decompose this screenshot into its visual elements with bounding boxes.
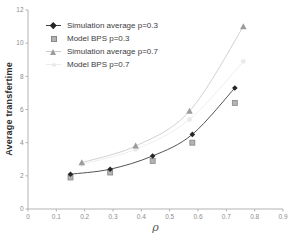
legend-item-model-p07: Model BPS p=0.7 xyxy=(46,58,158,71)
triangle-marker xyxy=(132,143,139,149)
legend-label: Model BPS p=0.7 xyxy=(67,60,129,69)
triangle-icon xyxy=(50,49,56,55)
legend-marker-triangle-icon xyxy=(46,47,63,56)
x-tick-label: 0.5 xyxy=(165,213,174,220)
triangle-marker xyxy=(240,23,247,29)
y-axis-title: Average transfertime xyxy=(4,9,14,209)
y-tick-label: 0 xyxy=(20,205,24,212)
x-tick-label: 0.8 xyxy=(250,213,259,220)
diamond-marker xyxy=(150,153,156,159)
legend-item-simulation-p07: Simulation average p=0.7 xyxy=(46,45,158,58)
dot-icon xyxy=(52,63,56,67)
y-tick-label: 10 xyxy=(16,39,24,46)
legend: Simulation average p=0.3 Model BPS p=0.3… xyxy=(46,19,158,71)
dot-marker xyxy=(187,117,192,122)
x-tick-label: 0.3 xyxy=(108,213,117,220)
series-line xyxy=(82,61,244,164)
x-tick-label: 0.7 xyxy=(222,213,231,220)
legend-label: Model BPS p=0.3 xyxy=(67,34,129,43)
y-tick-label: 12 xyxy=(16,6,24,13)
x-tick-label: 0.6 xyxy=(193,213,202,220)
y-tick-label: 8 xyxy=(20,73,24,80)
square-marker xyxy=(190,140,195,145)
legend-marker-dot-icon xyxy=(46,60,63,69)
legend-label: Simulation average p=0.3 xyxy=(67,21,158,30)
transfer-time-chart: 00.10.20.30.40.50.60.70.80.9024681012 Si… xyxy=(0,0,290,244)
x-tick-label: 0 xyxy=(26,213,30,220)
x-axis-title: ρ xyxy=(0,221,290,234)
diamond-icon xyxy=(50,22,56,28)
square-icon xyxy=(51,36,57,42)
legend-item-simulation-p03: Simulation average p=0.3 xyxy=(46,19,158,32)
dot-marker xyxy=(241,59,246,64)
square-marker xyxy=(150,158,155,163)
square-marker xyxy=(232,100,237,105)
legend-label: Simulation average p=0.7 xyxy=(67,47,158,56)
y-tick-label: 6 xyxy=(20,106,24,113)
x-tick-label: 0.1 xyxy=(52,213,61,220)
y-tick-label: 2 xyxy=(20,172,24,179)
legend-marker-diamond-icon xyxy=(46,21,63,30)
x-tick-label: 0.4 xyxy=(137,213,146,220)
legend-item-model-p03: Model BPS p=0.3 xyxy=(46,32,158,45)
y-tick-label: 4 xyxy=(20,139,24,146)
legend-marker-square-icon xyxy=(46,34,63,43)
x-tick-label: 0.2 xyxy=(80,213,89,220)
x-tick-label: 0.9 xyxy=(278,213,287,220)
